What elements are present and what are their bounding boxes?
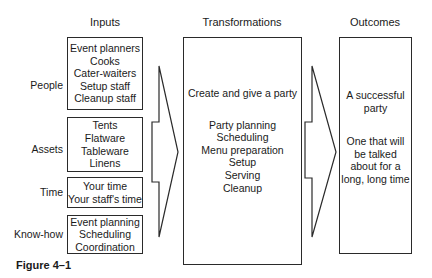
outcome-line: about for a — [350, 160, 400, 173]
transformations-box: Create and give a party Party planning S… — [183, 37, 302, 265]
transformation-step: Scheduling — [217, 131, 269, 144]
transformation-step: Cleanup — [223, 182, 262, 195]
figure-caption: Figure 4–1 — [16, 259, 71, 271]
outcome-secondary: One that will be talked about for a long… — [341, 135, 409, 185]
outcomes-box: A successful party One that will be talk… — [339, 37, 412, 254]
arrow-transformations-to-outcomes-icon — [305, 66, 336, 237]
transformation-step: Setup — [229, 156, 256, 169]
outcome-primary: A successful party — [345, 89, 407, 114]
arrow-inputs-to-transformations-icon — [152, 66, 178, 237]
transformation-step: Party planning — [209, 119, 276, 132]
outcome-line: One that will — [347, 135, 405, 148]
transformation-step: Menu preparation — [201, 144, 283, 157]
outcome-line: be talked — [354, 148, 397, 161]
transformation-step: Serving — [225, 169, 261, 182]
outcome-line: long, long time — [341, 173, 409, 186]
transformation-steps: Party planning Scheduling Menu preparati… — [201, 119, 283, 195]
transformation-summary: Create and give a party — [188, 87, 297, 100]
